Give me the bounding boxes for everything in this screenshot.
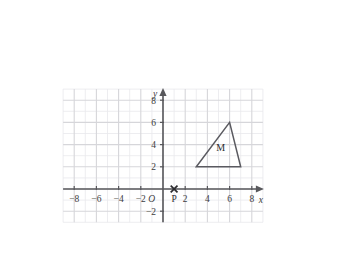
y-axis-tick-label: 4 [151, 140, 156, 150]
y-axis-name-label: y [152, 89, 158, 99]
shape-label-m: M [216, 142, 225, 153]
x-axis-name-label: x [258, 195, 264, 205]
axis-annotations: Oxy [148, 89, 264, 205]
x-axis-tick-label: 2 [183, 194, 188, 204]
coordinate-plane-svg: −8−6−4−22468−22468 M P Oxy [0, 0, 356, 258]
y-axis-tick-label: 6 [151, 118, 156, 128]
x-axis-tick-label: 8 [249, 194, 254, 204]
x-axis-tick-label: −8 [69, 194, 79, 204]
point-label-p: P [171, 194, 176, 204]
x-axis-tick-label: −4 [114, 194, 124, 204]
x-axis-tick-label: 6 [227, 194, 232, 204]
x-axis-tick-label: 4 [205, 194, 210, 204]
y-axis-tick-label: −2 [146, 207, 156, 217]
origin-label: O [148, 194, 155, 204]
coordinate-grid-figure: −8−6−4−22468−22468 M P Oxy [0, 0, 356, 258]
x-axis-tick-label: −6 [91, 194, 101, 204]
y-axis-tick-label: 2 [151, 162, 156, 172]
x-axis-tick-label: −2 [136, 194, 146, 204]
